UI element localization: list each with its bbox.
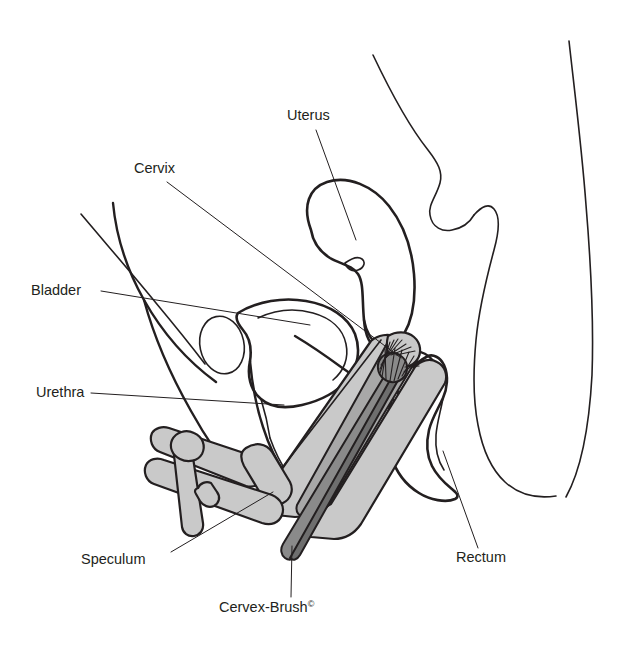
label-speculum: Speculum [81, 551, 145, 567]
label-uterus: Uterus [287, 107, 330, 123]
label-cervix: Cervix [134, 160, 176, 176]
anatomical-diagram: Uterus Cervix Bladder Urethra Speculum R… [0, 0, 637, 656]
diagram-canvas: Uterus Cervix Bladder Urethra Speculum R… [0, 0, 637, 656]
label-cervex-brush-name: Cervex-Brush [219, 599, 308, 615]
label-bladder: Bladder [31, 282, 81, 298]
label-urethra: Urethra [36, 384, 85, 400]
label-cervex-brush: Cervex-Brush© [219, 599, 315, 615]
copyright-superscript-icon: © [308, 599, 315, 609]
label-rectum: Rectum [456, 549, 506, 565]
